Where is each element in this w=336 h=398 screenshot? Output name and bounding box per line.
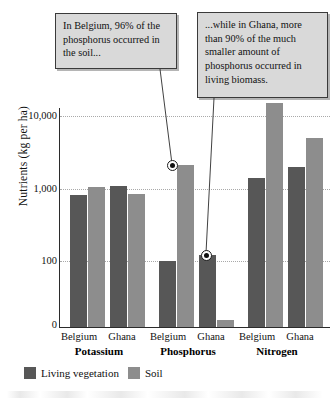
x-label-potassium-belgium: Belgium bbox=[56, 331, 102, 342]
legend-item-living-vegetation: Living vegetation bbox=[24, 367, 119, 379]
bar-phosphorus-belgium-living-vegetation bbox=[159, 261, 176, 327]
x-label-nitrogen-ghana: Ghana bbox=[280, 331, 320, 342]
bar-potassium-belgium-soil bbox=[88, 187, 105, 327]
y-tick-10000: 10,000 bbox=[0, 110, 57, 121]
legend-label-soil: Soil bbox=[145, 367, 163, 379]
callout-belgium-text: In Belgium, 96% of the phosphorus occurr… bbox=[63, 20, 160, 58]
gridline-10000 bbox=[60, 116, 330, 117]
callout-dot-inner bbox=[204, 253, 209, 258]
bar-nitrogen-belgium-living-vegetation bbox=[248, 178, 265, 327]
callout-dot-phosphorus-belgium-soil bbox=[167, 160, 178, 171]
callout-belgium: In Belgium, 96% of the phosphorus occurr… bbox=[55, 13, 177, 69]
legend-swatch-living-vegetation bbox=[24, 367, 36, 379]
bar-phosphorus-belgium-soil bbox=[177, 165, 194, 327]
x-label-phosphorus-belgium: Belgium bbox=[145, 331, 191, 342]
callout-dot-phosphorus-ghana-vegetation bbox=[201, 250, 212, 261]
y-tick-1000-label: 1,000 bbox=[33, 183, 57, 194]
bar-potassium-ghana-soil bbox=[128, 194, 145, 327]
y-tick-10000-label: 10,000 bbox=[28, 110, 57, 121]
y-axis-title: Nutrients (kg per ha) bbox=[17, 81, 29, 231]
group-title-phosphorus: Phosphorus bbox=[145, 345, 231, 357]
chart-legend: Living vegetation Soil bbox=[24, 367, 163, 379]
page-scan-artifact bbox=[0, 391, 336, 398]
group-title-nitrogen: Nitrogen bbox=[234, 345, 320, 357]
x-axis-line bbox=[59, 327, 330, 328]
legend-label-living-vegetation: Living vegetation bbox=[41, 367, 119, 379]
bar-potassium-belgium-living-vegetation bbox=[70, 195, 87, 327]
x-label-nitrogen-belgium: Belgium bbox=[234, 331, 280, 342]
bar-phosphorus-ghana-living-vegetation bbox=[199, 255, 216, 327]
y-tick-100: 100 bbox=[0, 255, 57, 266]
legend-swatch-soil bbox=[128, 367, 140, 379]
x-label-phosphorus-ghana: Ghana bbox=[191, 331, 231, 342]
bar-nitrogen-ghana-living-vegetation bbox=[288, 167, 305, 327]
plot-area bbox=[60, 108, 330, 327]
callout-dot-inner bbox=[170, 163, 175, 168]
y-tick-0-label: 0 bbox=[52, 319, 57, 330]
bar-nitrogen-ghana-soil bbox=[306, 138, 323, 327]
callout-ghana: ...while in Ghana, more than 90% of the … bbox=[197, 12, 328, 98]
bar-nitrogen-belgium-soil bbox=[266, 103, 283, 327]
legend-item-soil: Soil bbox=[128, 367, 163, 379]
chart-figure: Nutrients (kg per ha) 10,000 1,000 100 0 bbox=[0, 0, 336, 398]
y-tick-1000: 1,000 bbox=[0, 183, 57, 194]
bar-potassium-ghana-living-vegetation bbox=[110, 186, 127, 327]
x-label-potassium-ghana: Ghana bbox=[102, 331, 142, 342]
callout-ghana-text: ...while in Ghana, more than 90% of the … bbox=[205, 19, 302, 85]
bar-phosphorus-ghana-soil bbox=[217, 320, 234, 327]
group-title-potassium: Potassium bbox=[56, 345, 142, 357]
y-tick-100-label: 100 bbox=[41, 255, 57, 266]
y-tick-0: 0 bbox=[0, 319, 57, 330]
